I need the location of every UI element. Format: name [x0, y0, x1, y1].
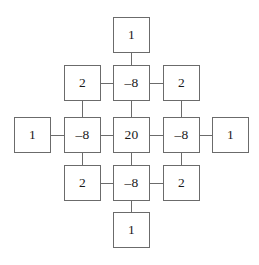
- node-box-r2-farright: 1: [212, 117, 249, 153]
- node-value-label: 2: [178, 76, 185, 90]
- node-box-r1-right: 2: [163, 65, 200, 101]
- node-box-r2-left: –8: [64, 117, 101, 153]
- node-value-label: 1: [227, 128, 234, 142]
- node-value-label: 20: [125, 128, 139, 142]
- node-value-label: 1: [128, 28, 135, 42]
- node-value-label: 2: [79, 76, 86, 90]
- node-box-r1-left: 2: [64, 65, 101, 101]
- node-value-label: 2: [79, 176, 86, 190]
- node-box-r2-right: –8: [163, 117, 200, 153]
- node-box-r3-left: 2: [64, 165, 101, 201]
- node-box-top: 1: [113, 17, 150, 53]
- node-value-label: –8: [76, 128, 90, 142]
- node-value-label: –8: [125, 76, 139, 90]
- node-box-r2-center: 20: [113, 117, 150, 153]
- node-box-r2-farleft: 1: [14, 117, 51, 153]
- node-box-r1-center: –8: [113, 65, 150, 101]
- node-value-label: 2: [178, 176, 185, 190]
- node-lattice-diagram: 12–821–820–812–821: [0, 0, 259, 265]
- node-value-label: 1: [29, 128, 36, 142]
- node-box-bottom: 1: [113, 212, 150, 248]
- node-value-label: –8: [125, 176, 139, 190]
- node-box-r3-center: –8: [113, 165, 150, 201]
- node-box-r3-right: 2: [163, 165, 200, 201]
- node-value-label: –8: [175, 128, 189, 142]
- node-value-label: 1: [128, 223, 135, 237]
